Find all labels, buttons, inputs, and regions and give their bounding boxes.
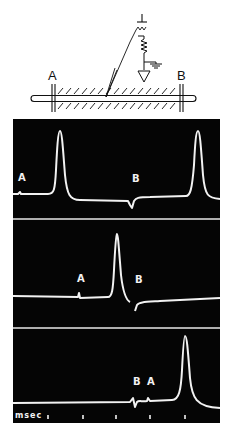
electrode-a-label: A: [48, 68, 57, 83]
electrode-b-label: B: [177, 68, 186, 83]
stimulator-terminal-icon: [137, 14, 147, 22]
nerve-diagram: A B: [31, 14, 196, 112]
nerve-fiber: [31, 96, 196, 102]
stimulus-b-marker: B: [132, 173, 140, 184]
oscilloscope-traces: A B A B B A msec: [13, 119, 220, 423]
stimulus-a-marker: A: [147, 376, 155, 387]
resistor-icon: [138, 36, 147, 70]
stimulus-b-marker: B: [133, 376, 141, 387]
stimulus-a-marker: A: [18, 172, 26, 183]
amplifier-icon: [138, 71, 150, 82]
figure: A B: [0, 0, 232, 442]
stimulus-a-marker: A: [77, 273, 85, 284]
oscilloscope-screen: [13, 119, 220, 423]
stimulating-microelectrode: [106, 27, 146, 97]
time-scale-label: msec: [15, 411, 42, 420]
stimulus-b-marker: B: [135, 274, 143, 285]
ground-icon: [144, 62, 162, 68]
